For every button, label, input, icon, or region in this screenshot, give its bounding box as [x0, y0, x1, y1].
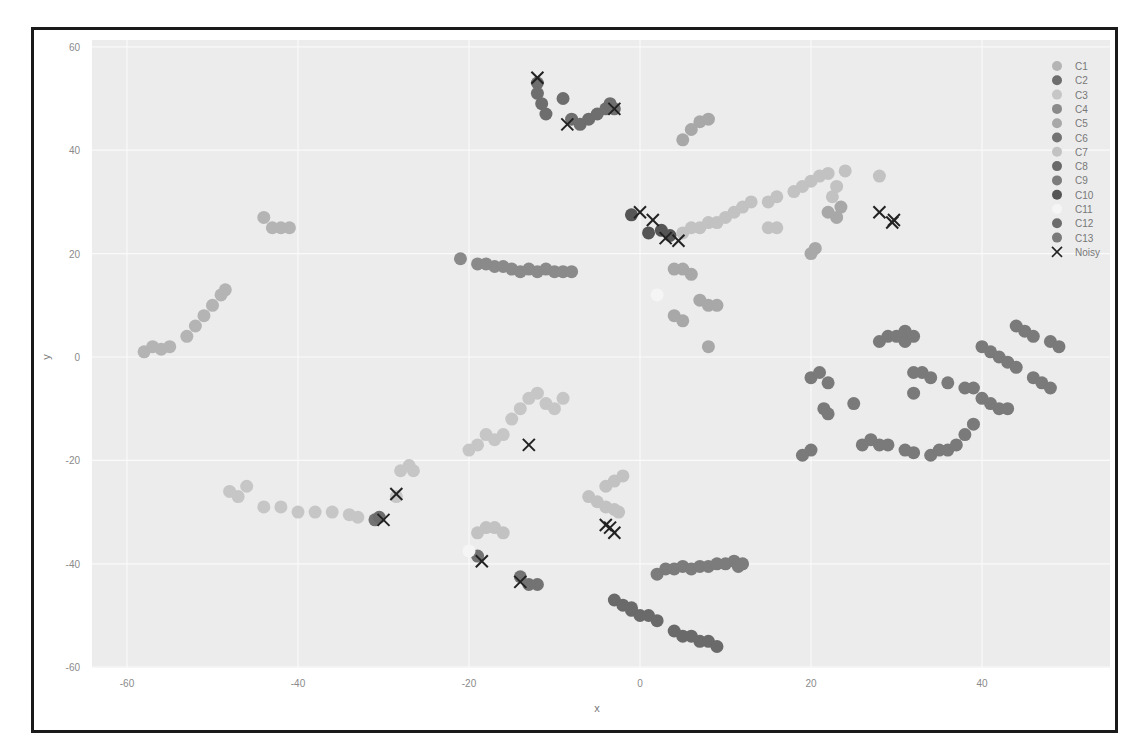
data-point	[770, 221, 783, 234]
data-point	[539, 108, 552, 121]
data-point	[351, 511, 364, 524]
data-point	[326, 506, 339, 519]
x-tick-label: 0	[637, 678, 643, 689]
data-point	[822, 167, 835, 180]
data-point	[219, 283, 232, 296]
data-point	[907, 446, 920, 459]
data-point	[163, 340, 176, 353]
data-point	[950, 438, 963, 451]
circle-marker-icon	[1052, 218, 1062, 228]
data-point	[309, 506, 322, 519]
data-point	[916, 366, 929, 379]
circle-marker-icon	[1052, 147, 1062, 157]
data-point	[497, 526, 510, 539]
x-axis-ticks: -60-40-2002040	[120, 678, 988, 689]
data-point	[958, 428, 971, 441]
y-axis-label: y	[40, 354, 52, 360]
legend-label: C5	[1075, 118, 1088, 129]
data-point	[1052, 340, 1065, 353]
data-point	[531, 578, 544, 591]
data-point	[873, 170, 886, 183]
data-point	[557, 392, 570, 405]
data-point	[822, 407, 835, 420]
data-point	[463, 544, 476, 557]
data-point	[651, 288, 664, 301]
circle-marker-icon	[1052, 133, 1062, 143]
data-point	[710, 299, 723, 312]
data-point	[497, 428, 510, 441]
data-point	[505, 413, 518, 426]
data-point	[257, 500, 270, 513]
circle-marker-icon	[1052, 161, 1062, 171]
data-point	[958, 382, 971, 395]
circle-marker-icon	[1052, 75, 1062, 85]
data-point	[625, 208, 638, 221]
data-point	[651, 614, 664, 627]
data-point	[702, 113, 715, 126]
data-point	[373, 511, 386, 524]
data-point	[206, 299, 219, 312]
data-point	[822, 376, 835, 389]
circle-marker-icon	[1052, 90, 1062, 100]
data-point	[407, 464, 420, 477]
y-tick-label: 40	[69, 145, 81, 156]
data-point	[514, 402, 527, 415]
y-tick-label: -60	[66, 662, 81, 673]
data-point	[745, 195, 758, 208]
plot-area	[92, 40, 1110, 668]
data-point	[565, 265, 578, 278]
data-point	[180, 330, 193, 343]
data-point	[834, 201, 847, 214]
data-point	[1010, 361, 1023, 374]
data-point	[809, 242, 822, 255]
legend-label: C2	[1075, 75, 1088, 86]
data-point	[732, 560, 745, 573]
legend-label: C6	[1075, 133, 1088, 144]
data-point	[257, 211, 270, 224]
y-tick-label: -20	[66, 455, 81, 466]
circle-marker-icon	[1052, 104, 1062, 114]
data-point	[189, 319, 202, 332]
circle-marker-icon	[1052, 233, 1062, 243]
series-c12	[373, 511, 386, 524]
data-point	[240, 480, 253, 493]
legend-label: C11	[1075, 204, 1093, 215]
data-point	[471, 438, 484, 451]
data-point	[274, 500, 287, 513]
y-tick-label: 0	[74, 352, 80, 363]
y-axis-ticks: 6040200-20-40-60	[66, 42, 81, 673]
data-point	[390, 490, 403, 503]
data-point	[531, 387, 544, 400]
data-point	[881, 438, 894, 451]
data-point	[1027, 330, 1040, 343]
data-point	[813, 366, 826, 379]
data-point	[283, 221, 296, 234]
x-tick-label: -40	[291, 678, 306, 689]
data-point	[1044, 382, 1057, 395]
legend-label: C8	[1075, 161, 1088, 172]
circle-marker-icon	[1052, 204, 1062, 214]
data-point	[770, 190, 783, 203]
data-point	[702, 340, 715, 353]
x-tick-label: 40	[976, 678, 988, 689]
circle-marker-icon	[1052, 175, 1062, 185]
data-point	[839, 164, 852, 177]
data-point	[826, 190, 839, 203]
x-tick-label: -60	[120, 678, 135, 689]
y-tick-label: 60	[69, 42, 81, 53]
legend-label: Noisy	[1075, 247, 1100, 258]
y-tick-label: 20	[69, 249, 81, 260]
data-point	[232, 490, 245, 503]
data-point	[642, 226, 655, 239]
legend-label: C4	[1075, 104, 1088, 115]
legend-label: C1	[1075, 61, 1088, 72]
x-tick-label: 20	[805, 678, 817, 689]
data-point	[557, 92, 570, 105]
legend-label: C3	[1075, 90, 1088, 101]
legend-label: C13	[1075, 233, 1094, 244]
legend-label: C7	[1075, 147, 1088, 158]
legend-label: C10	[1075, 190, 1094, 201]
x-tick-label: -20	[462, 678, 477, 689]
data-point	[454, 252, 467, 265]
data-point	[941, 376, 954, 389]
